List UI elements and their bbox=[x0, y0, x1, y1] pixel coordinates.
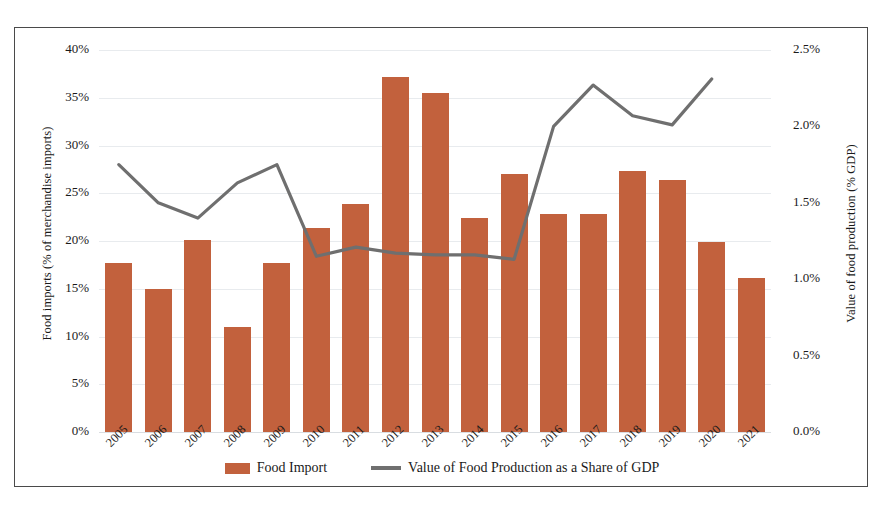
legend-label-value-of-food-production: Value of Food Production as a Share of G… bbox=[408, 460, 659, 476]
left-axis-tick-label: 30% bbox=[31, 137, 89, 153]
line-series-value-of-food-production bbox=[99, 50, 771, 432]
left-axis-tick-label: 15% bbox=[31, 280, 89, 296]
legend-label-food-import: Food Import bbox=[257, 460, 327, 476]
right-axis-tick-label: 0.5% bbox=[793, 347, 851, 363]
right-axis-tick-label: 0.0% bbox=[793, 423, 851, 439]
right-axis-tick-label: 2.5% bbox=[793, 41, 851, 57]
right-axis-tick-label: 2.0% bbox=[793, 117, 851, 133]
chart-frame: Food imports (% of merchandise imports) … bbox=[14, 27, 868, 487]
legend-item-value-of-food-production[interactable]: Value of Food Production as a Share of G… bbox=[371, 460, 659, 476]
plot-area: 0%5%10%15%20%25%30%35%40% 0.0%0.5%1.0%1.… bbox=[99, 50, 771, 432]
left-axis-tick-label: 20% bbox=[31, 232, 89, 248]
legend-line-swatch-icon bbox=[371, 466, 401, 470]
right-axis-tick-label: 1.5% bbox=[793, 194, 851, 210]
right-axis-tick-label: 1.0% bbox=[793, 270, 851, 286]
left-axis-tick-label: 0% bbox=[31, 423, 89, 439]
left-axis-tick-label: 25% bbox=[31, 184, 89, 200]
legend-bar-swatch-icon bbox=[225, 463, 250, 474]
left-axis-tick-label: 5% bbox=[31, 375, 89, 391]
left-axis-tick-label: 10% bbox=[31, 328, 89, 344]
chart-screenshot: Food imports (% of merchandise imports) … bbox=[0, 0, 881, 519]
legend-item-food-import[interactable]: Food Import bbox=[225, 460, 327, 476]
left-axis-tick-label: 35% bbox=[31, 89, 89, 105]
chart-legend: Food Import Value of Food Production as … bbox=[15, 460, 869, 476]
line-path bbox=[119, 79, 712, 259]
left-axis-tick-label: 40% bbox=[31, 41, 89, 57]
